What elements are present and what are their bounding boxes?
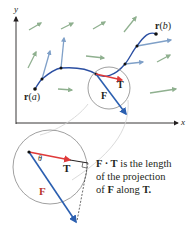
T-label-large: T	[63, 163, 70, 174]
point-r-b	[154, 32, 158, 36]
F-label-large: F	[39, 186, 46, 197]
magnifier-circle-large	[13, 130, 87, 204]
theta-label: θ	[38, 155, 42, 163]
y-axis-label: y	[14, 5, 18, 14]
label-r-b: r(b)	[155, 21, 171, 31]
T-extension-line	[70, 160, 88, 163]
x-axis-label: x	[181, 118, 185, 127]
projection-caption: F · T is the length of the projection of…	[96, 157, 172, 196]
T-label-small: T	[117, 80, 124, 90]
label-r-a: r(a)	[24, 92, 40, 102]
projection-dashed-line	[77, 163, 88, 221]
T-vector-large	[29, 152, 70, 160]
origin-point-large	[27, 150, 30, 153]
curve-C	[35, 33, 156, 89]
curve-points	[33, 32, 158, 91]
F-label-small: F	[101, 91, 107, 101]
